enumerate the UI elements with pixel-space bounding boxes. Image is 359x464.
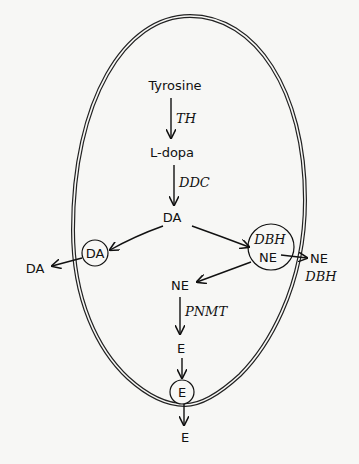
- pathway-diagram: Tyrosine TH L-dopa DDC DA DA DA DBH NE N…: [0, 0, 359, 464]
- cell-membrane: [73, 16, 305, 405]
- node-e-released: E: [181, 430, 189, 445]
- enzyme-dbh-vesicle: DBH: [253, 232, 286, 247]
- node-ldopa: L-dopa: [150, 145, 194, 160]
- node-e-vesicle: E: [178, 385, 186, 400]
- enzyme-pnmt: PNMT: [184, 304, 228, 319]
- arrow-ne-to-cytosol: [197, 262, 251, 282]
- enzyme-ddc: DDC: [178, 175, 210, 190]
- node-da: DA: [163, 210, 182, 225]
- arrow-da-release: [52, 258, 82, 266]
- arrow-da-to-ne-vesicle: [192, 226, 249, 247]
- node-ne-vesicle: NE: [259, 250, 277, 265]
- node-da-released: DA: [26, 261, 45, 276]
- arrow-da-to-vesicle: [110, 226, 163, 250]
- arrow-ne-release: [281, 255, 307, 258]
- node-ne-cytosol: NE: [171, 278, 189, 293]
- enzyme-th: TH: [176, 111, 197, 126]
- node-tyrosine: Tyrosine: [147, 78, 201, 93]
- enzyme-dbh-released: DBH: [304, 269, 337, 284]
- node-ne-released: NE: [310, 251, 328, 266]
- node-e-cytosol: E: [177, 341, 185, 356]
- node-da-vesicle: DA: [86, 246, 105, 261]
